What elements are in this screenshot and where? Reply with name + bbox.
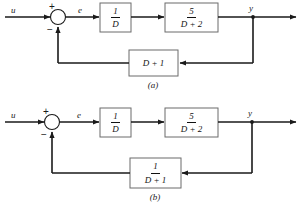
- block-plant: [165, 3, 218, 32]
- label-error-e: e: [78, 6, 82, 15]
- block-feedback: [129, 50, 178, 76]
- label-sum-minus: −: [41, 130, 47, 140]
- block-diagram-b: u + − e y 1 D 5 D + 2 1 D + 1 (b): [0, 100, 304, 211]
- label-sum-plus: +: [49, 2, 55, 12]
- block-feedback: [130, 158, 181, 188]
- label-error-e: e: [77, 111, 81, 120]
- block-integrator: [100, 108, 131, 137]
- caption-b: (b): [142, 193, 168, 202]
- label-input-u: u: [11, 111, 16, 120]
- block-diagram-a: u + − e y 1 D 5 D + 2 D + 1 (a): [0, 0, 304, 100]
- caption-a: (a): [140, 81, 166, 90]
- label-output-y: y: [248, 109, 252, 118]
- label-sum-plus: +: [43, 107, 49, 117]
- label-output-y: y: [249, 4, 253, 13]
- label-input-u: u: [11, 6, 16, 15]
- label-sum-minus: −: [47, 25, 53, 35]
- block-plant: [165, 108, 218, 137]
- block-integrator: [100, 3, 131, 32]
